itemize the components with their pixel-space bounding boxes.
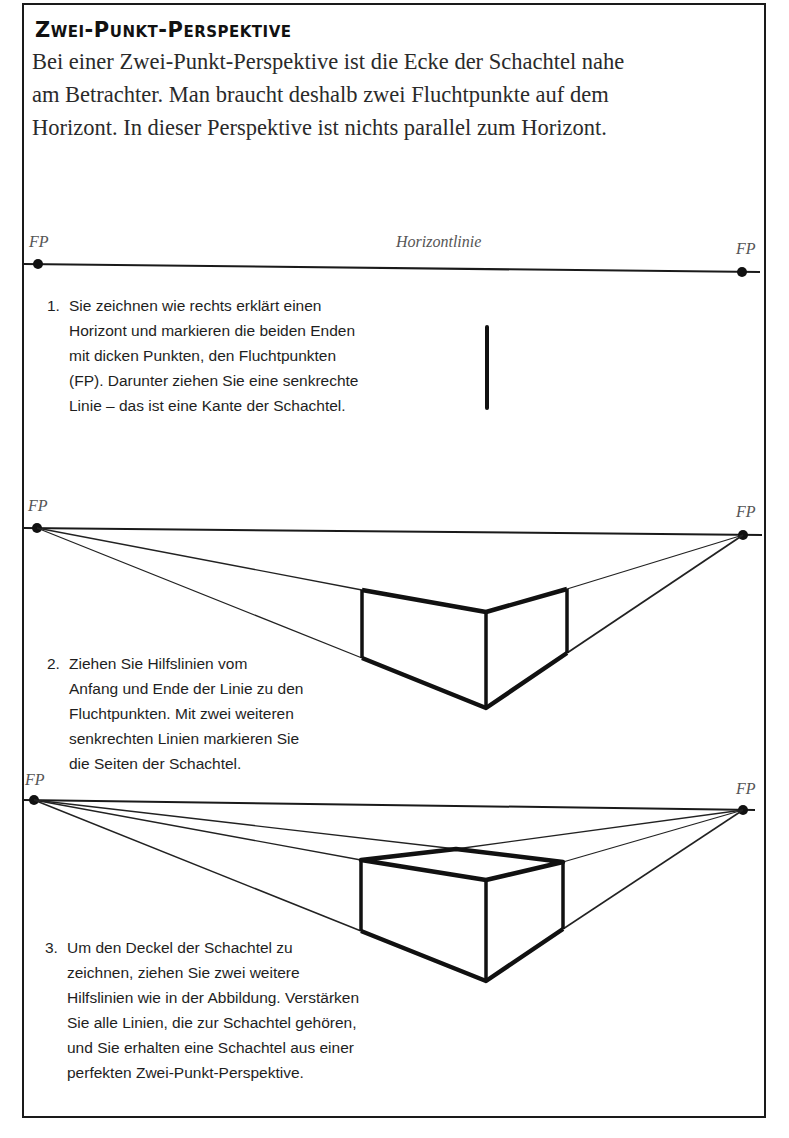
fp-label-left: FP — [25, 771, 45, 789]
construction-line — [563, 810, 743, 862]
step-line: mit dicken Punkten, den Fluchtpunkten — [69, 343, 358, 368]
step-line: Horizont und markieren die beiden Enden — [69, 318, 358, 343]
construction-line — [563, 810, 743, 929]
horizon-line — [24, 528, 762, 535]
construction-line — [37, 528, 362, 590]
vanishing-point-left — [33, 259, 43, 269]
step-number: 2. — [47, 651, 60, 676]
box-outline — [362, 589, 567, 612]
step-2-text: 2. Ziehen Sie Hilfslinien vom Anfang und… — [69, 651, 303, 776]
step-line: Hilfslinien wie in der Abbildung. Verstä… — [67, 985, 359, 1010]
step-line: Um den Deckel der Schachtel zu — [67, 935, 359, 960]
step-line: perfekten Zwei-Punkt-Perspektive. — [67, 1060, 359, 1085]
step-line: Linie – das ist eine Kante der Schachtel… — [69, 393, 358, 418]
construction-line — [34, 800, 361, 860]
step-line: Sie alle Linien, die zur Schachtel gehör… — [67, 1010, 359, 1035]
fp-label-left: FP — [29, 233, 49, 251]
step-line: und Sie erhalten eine Schachtel aus eine… — [67, 1035, 359, 1060]
fp-label-right: FP — [736, 240, 756, 258]
step-line: Anfang und Ende der Linie zu den — [69, 676, 303, 701]
box-outline — [362, 653, 567, 708]
step-number: 1. — [47, 293, 60, 318]
box-outline — [361, 929, 563, 981]
fp-label-left: FP — [28, 497, 48, 515]
fp-label-right: FP — [736, 780, 756, 798]
construction-line — [34, 800, 361, 931]
step-line: (FP). Darunter ziehen Sie eine senkrecht… — [69, 368, 358, 393]
step-3-text: 3. Um den Deckel der Schachtel zu zeichn… — [67, 935, 359, 1085]
horizon-line — [24, 800, 755, 810]
step-line: zeichnen, ziehen Sie zwei weitere — [67, 960, 359, 985]
horizon-label: Horizontlinie — [396, 233, 481, 251]
step-number: 3. — [45, 935, 58, 960]
step-1-text: 1. Sie zeichnen wie rechts erklärt einen… — [69, 293, 358, 418]
step-line: Sie zeichnen wie rechts erklärt einen — [69, 293, 358, 318]
box-lid — [361, 849, 563, 880]
construction-line — [567, 535, 743, 653]
step-line: Fluchtpunkten. Mit zwei weiteren — [69, 701, 303, 726]
step-line: die Seiten der Schachtel. — [69, 751, 303, 776]
horizon-line — [24, 264, 760, 272]
step-line: Ziehen Sie Hilfslinien vom — [69, 651, 303, 676]
construction-line — [567, 535, 743, 589]
construction-line — [456, 810, 743, 849]
vanishing-point-right — [737, 267, 747, 277]
step-line: senkrechten Linien markieren Sie — [69, 726, 303, 751]
construction-line — [34, 800, 456, 849]
construction-line — [37, 528, 362, 658]
fp-label-right: FP — [736, 503, 756, 521]
